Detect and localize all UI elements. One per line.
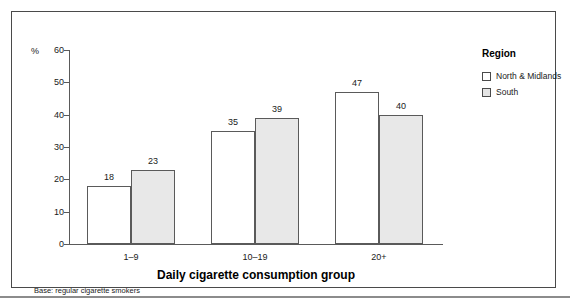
legend-title: Region — [482, 48, 570, 59]
x-axis-line — [69, 244, 443, 245]
y-tick-label: 40 — [36, 111, 64, 120]
x-axis-title: Daily cigarette consumption group — [69, 268, 443, 282]
bar-value-label: 23 — [131, 157, 175, 166]
bar-value-label: 47 — [335, 79, 379, 88]
y-tick-label-wrap: 40 — [26, 111, 64, 120]
y-tick-label: 20 — [36, 175, 64, 184]
bar-north-midlands-1[interactable] — [211, 131, 255, 244]
y-tick-label-wrap: 30 — [26, 143, 64, 152]
bar-value-label: 35 — [211, 118, 255, 127]
y-tick-label: 50 — [36, 78, 64, 87]
y-tick-label: 0 — [36, 240, 64, 249]
legend-item-label: North & Midlands — [496, 72, 561, 81]
bar-south-0[interactable] — [131, 170, 175, 244]
bar-south-2[interactable] — [379, 115, 423, 244]
white-square-icon — [482, 72, 491, 81]
legend-item-north-midlands[interactable]: North & Midlands — [482, 72, 570, 81]
bar-south-1[interactable] — [255, 118, 299, 244]
legend: Region North & MidlandsSouth — [482, 48, 570, 104]
legend-item-label: South — [496, 88, 518, 97]
y-tick-label-wrap: 50 — [26, 78, 64, 87]
plot-area: 182335394740 — [69, 50, 441, 244]
figure-frame: % 0102030405060 182335394740 1–910–1920+… — [11, 11, 556, 288]
y-tick-label: 60 — [36, 46, 64, 55]
y-tick-mark — [64, 244, 69, 245]
y-tick-label-wrap: 0 — [26, 240, 64, 249]
page-bottom-rule — [0, 296, 570, 298]
y-tick-label: 10 — [36, 208, 64, 217]
bar-north-midlands-0[interactable] — [87, 186, 131, 244]
y-tick-label-wrap: 10 — [26, 208, 64, 217]
bar-value-label: 18 — [87, 173, 131, 182]
bar-value-label: 39 — [255, 105, 299, 114]
y-tick-label-wrap: 20 — [26, 175, 64, 184]
x-category-label: 1–9 — [87, 252, 175, 262]
x-category-label: 10–19 — [211, 252, 299, 262]
bar-value-label: 40 — [379, 102, 423, 111]
legend-items: North & MidlandsSouth — [482, 72, 570, 97]
y-tick-label: 30 — [36, 143, 64, 152]
grey-square-icon — [482, 88, 491, 97]
x-category-label: 20+ — [335, 252, 423, 262]
legend-item-south[interactable]: South — [482, 88, 570, 97]
chart-footnote: Base: regular cigarette smokers — [34, 286, 140, 295]
bar-north-midlands-2[interactable] — [335, 92, 379, 244]
y-tick-label-wrap: 60 — [26, 46, 64, 55]
